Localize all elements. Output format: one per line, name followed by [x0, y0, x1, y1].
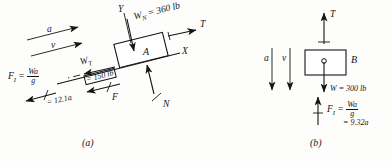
panel-a-block-label: A [143, 47, 149, 57]
panel-a-normal-force-arrow [147, 65, 161, 101]
fi-b-value: = 9.32a [343, 119, 368, 127]
fi-b-fraction: Wa g [346, 101, 358, 118]
panel-a-normal-force-label: N [163, 100, 169, 110]
panel-b-velocity-label: v [282, 54, 286, 64]
panel-a-acceleration-label: a [47, 25, 52, 35]
panel-b-caption: (b) [310, 137, 322, 148]
panel-b-acceleration-label: a [264, 54, 269, 64]
figure-linework [0, 0, 392, 161]
wn-subscript: N [141, 14, 147, 22]
panel-a-tension-label: T [200, 20, 205, 30]
fi-b-equals: = [337, 104, 343, 114]
panel-a-acceleration-arrow [27, 27, 78, 40]
panel-a-caption: (a) [82, 137, 94, 148]
fi-a-denominator: g [27, 77, 39, 85]
panel-a-x-axis-label: X [182, 47, 188, 57]
fi-a-equals: = [18, 71, 24, 81]
panel-a-inertia-force-label: FI = Wa g [8, 68, 39, 85]
panel-a-y-axis-label: Y [118, 5, 123, 15]
panel-b-block-label: B [351, 55, 357, 65]
panel-b-tension-label: T [330, 10, 335, 20]
panel-a-friction-label: F [112, 93, 118, 103]
panel-a-tension-arrow [168, 30, 196, 40]
panel-a-y-axis [124, 13, 131, 43]
panel-b-inertia-force-arrow [313, 97, 323, 125]
fi-b-denominator: g [346, 110, 358, 118]
panel-b-tension-arrow [318, 13, 330, 44]
panel-b-block [305, 50, 346, 75]
fi-a-fraction: Wa g [27, 68, 39, 85]
figure-canvas: a v Y X A WN = 360 lb WT = 150 lb F N T … [0, 0, 392, 161]
panel-a-velocity-arrow [31, 43, 82, 56]
panel-b-inertia-force-label: FI = Wa g = 9.32a [327, 101, 368, 127]
panel-a-velocity-label: v [51, 41, 55, 51]
panel-a-block [114, 32, 168, 67]
fi-b-subscript: I [333, 109, 335, 116]
fi-a-subscript: I [14, 76, 16, 83]
panel-b-weight-label: W = 300 lb [330, 85, 366, 93]
wt-subscript: T [88, 59, 93, 67]
